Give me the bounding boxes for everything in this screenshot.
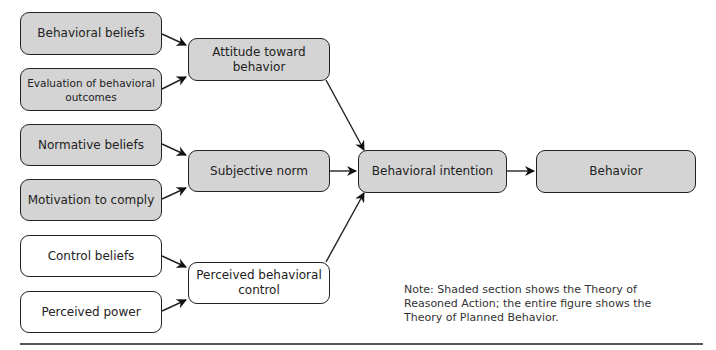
arrow-evaluation-to-attitude [162,77,186,89]
arrow-power-to-pbc [162,300,186,311]
box-label: Perceived power [41,305,140,320]
arrow-motivation-to-subjective [162,188,186,199]
arrow-pbc-to-intention [326,193,364,262]
box-label: Attitude toward behavior [195,45,323,75]
box-label: Behavioral beliefs [37,26,144,41]
box-perceived-behavioral-control: Perceived behavioral control [188,262,330,304]
box-label: Motivation to comply [28,193,155,208]
box-label: Normative beliefs [38,138,144,153]
box-label: Evaluation of behavioral outcomes [27,76,155,104]
box-label: Control beliefs [48,249,135,264]
figure-note: Note: Shaded section shows the Theory of… [404,283,684,325]
arrow-behavioral-beliefs-to-attitude [162,34,186,45]
box-label: Behavior [589,164,642,179]
box-perceived-power: Perceived power [20,291,162,333]
bottom-rule [20,343,703,345]
box-evaluation-of-outcomes: Evaluation of behavioral outcomes [20,68,162,111]
box-label: Subjective norm [210,164,308,179]
box-behavioral-intention: Behavioral intention [358,150,507,193]
box-normative-beliefs: Normative beliefs [20,124,162,166]
arrow-normative-to-subjective [162,144,186,155]
arrow-control-beliefs-to-pbc [162,256,186,267]
box-motivation-to-comply: Motivation to comply [20,179,162,221]
arrow-attitude-to-intention [326,80,364,150]
box-subjective-norm: Subjective norm [188,150,330,192]
box-attitude-toward-behavior: Attitude toward behavior [188,38,330,81]
box-behavior: Behavior [536,150,696,193]
box-behavioral-beliefs: Behavioral beliefs [20,12,162,55]
box-label: Behavioral intention [372,164,493,179]
box-label: Perceived behavioral control [195,268,323,298]
box-control-beliefs: Control beliefs [20,235,162,277]
